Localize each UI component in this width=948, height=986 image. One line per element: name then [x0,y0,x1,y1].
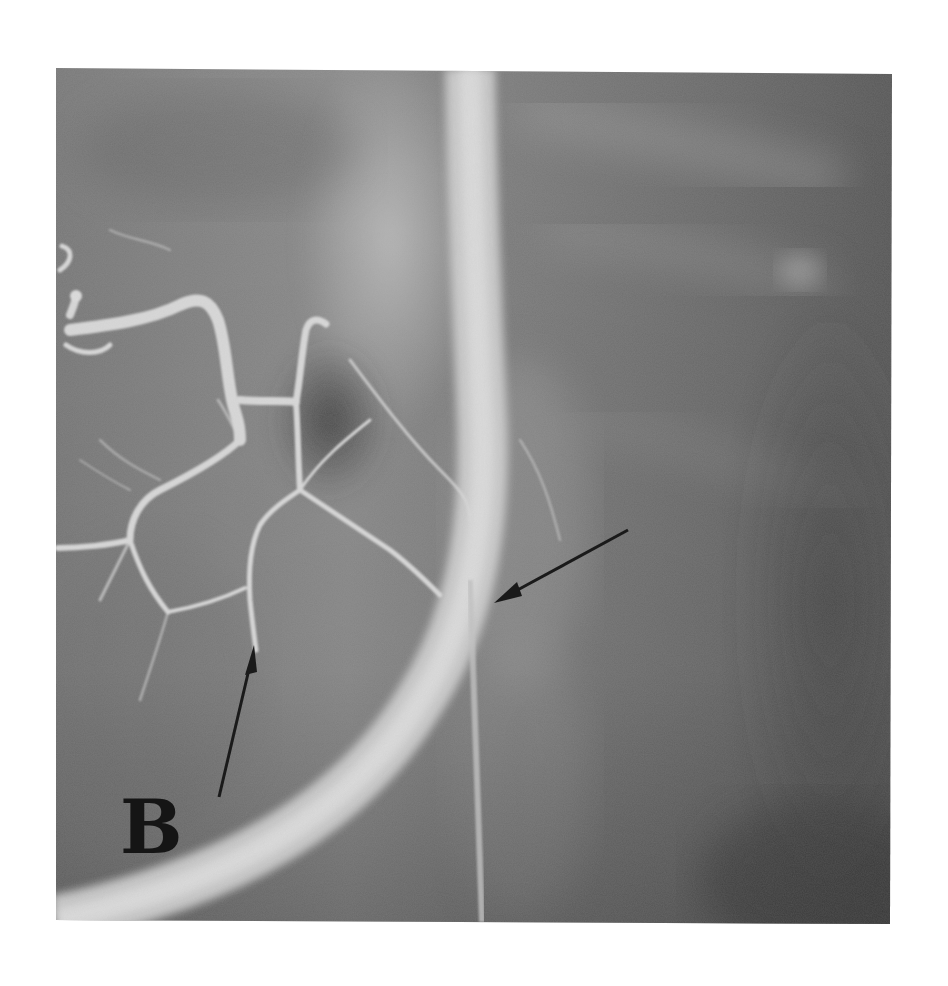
figure-frame: B [0,0,948,986]
panel-label: B [120,790,183,864]
